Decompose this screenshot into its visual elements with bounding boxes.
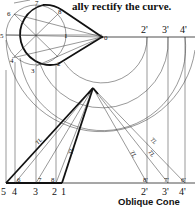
bottom-label-4p: 4' [179,186,186,197]
arc-label-4: 4' [180,24,187,35]
bottom-label-2: 2 [52,186,57,197]
header-text: ally rectify the curve. [72,0,172,12]
inner-label-6: 6 [17,176,21,184]
caption: Oblique Cone [118,196,180,207]
true-length-edge-right [62,88,93,183]
point-label-7: 7 [35,0,39,7]
point-label-6: 6 [7,10,11,18]
element-line [56,88,93,183]
element-line [36,88,93,183]
point-label-2: 2 [57,60,61,68]
bottom-label-1: 1 [61,186,66,197]
oblique-cone-diagram: ally rectify the curve. 0 1 2 3 4 5 6 7 … [0,0,195,207]
dimension-mark [14,0,30,3]
point-label-5: 5 [0,32,4,40]
bottom-label-3: 3 [33,186,38,197]
inner-label-8: 8 [51,176,55,184]
tl-label: TL [129,150,138,159]
inner-label-7p: 7' [164,176,169,184]
arc-5 [6,40,195,132]
point-label-0: 0 [104,34,108,42]
swing-arcs: 2' 3' 4' [6,24,195,132]
point-label-3: 3 [31,67,35,75]
point-label-1: 1 [64,32,68,40]
apex-mark [93,88,98,94]
arc-3 [40,37,168,108]
point-label-4: 4 [10,57,14,65]
construction-line [12,37,102,58]
bottom-label-4: 4 [12,186,17,197]
inner-label-7: 7 [38,176,42,184]
arc-label-3: 3' [162,24,169,35]
bottom-label-5: 5 [1,186,6,197]
construction-line [36,37,102,66]
arc-label-2: 2' [141,24,148,35]
elevation: TL TL TL TL TL 6 7 8 8' 7' 6' 5 4 3 2 1 … [1,88,195,197]
element-line [15,88,93,183]
inner-label-6p: 6' [181,176,186,184]
element-line [93,88,168,183]
tl-label: TL [147,149,156,158]
inner-label-8p: 8' [143,176,148,184]
tl-label: TL [149,136,158,145]
point-label-8: 8 [58,8,62,16]
arc-4 [20,37,186,131]
construction-line [14,14,102,37]
arc-2 [64,37,147,83]
true-length-edge-left [6,88,93,183]
